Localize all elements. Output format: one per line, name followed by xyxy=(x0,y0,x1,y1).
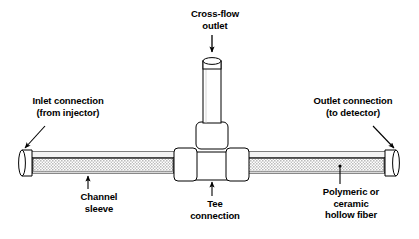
label-channel-sleeve-line1: Channel xyxy=(56,191,142,203)
label-hollow-fiber-line1: Polymeric or xyxy=(292,186,410,198)
label-outlet-connection: Outlet connection (to detector) xyxy=(290,95,416,118)
channel-sleeve-left-shadow xyxy=(33,172,173,174)
outlet-end-fitting xyxy=(385,150,399,176)
tee-body xyxy=(195,152,229,180)
label-cross-flow-outlet: Cross-flow outlet xyxy=(155,8,275,31)
label-hollow-fiber-line2: ceramic xyxy=(292,198,410,210)
label-inlet-connection-line1: Inlet connection xyxy=(6,95,130,107)
label-inlet-connection: Inlet connection (from injector) xyxy=(6,95,130,118)
label-hollow-fiber-line3: hollow fiber xyxy=(292,209,410,221)
outlet-fitting-opening xyxy=(393,150,400,176)
inlet-fitting-opening xyxy=(19,150,26,176)
channel-sleeve-right-shadow xyxy=(244,172,384,174)
label-hollow-fiber: Polymeric or ceramic hollow fiber xyxy=(292,186,410,221)
label-outlet-connection-line1: Outlet connection xyxy=(290,95,416,107)
label-channel-sleeve: Channel sleeve xyxy=(56,191,142,214)
channel-sleeve-right-highlight xyxy=(243,152,385,158)
tee-right-nut xyxy=(226,148,249,181)
label-tee-connection: Tee connection xyxy=(163,198,267,221)
label-inlet-connection-line2: (from injector) xyxy=(6,107,130,119)
leader-outlet-connection xyxy=(373,126,394,148)
tee-left-nut xyxy=(174,148,197,181)
label-tee-connection-line2: connection xyxy=(163,210,267,222)
label-channel-sleeve-line2: sleeve xyxy=(56,203,142,215)
leader-hollow-fiber-dot xyxy=(338,164,341,167)
inlet-end-fitting xyxy=(19,150,32,176)
cross-flow-outlet-tube xyxy=(203,58,221,123)
hollow-fiber-channel-diagram: Cross-flow outlet Inlet connection (from… xyxy=(0,0,419,239)
cross-flow-tube-opening xyxy=(203,58,221,65)
hollow-fiber-left-texture xyxy=(33,159,173,172)
label-outlet-connection-line2: (to detector) xyxy=(290,107,416,119)
tee-connection xyxy=(174,122,249,181)
channel-sleeve-left-highlight xyxy=(32,152,174,158)
hollow-fiber-right-texture xyxy=(244,159,384,172)
label-cross-flow-outlet-line2: outlet xyxy=(155,20,275,32)
left-channel-assembly xyxy=(32,152,174,173)
label-cross-flow-outlet-line1: Cross-flow xyxy=(155,8,275,20)
label-tee-connection-line1: Tee xyxy=(163,198,267,210)
tee-top-nut xyxy=(196,122,228,149)
right-channel-assembly xyxy=(243,152,385,173)
leader-inlet-connection xyxy=(25,126,45,148)
